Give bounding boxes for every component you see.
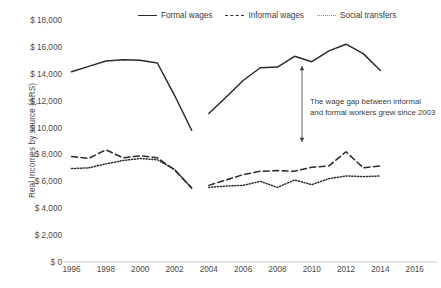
legend-label-social-transfers: Social transfers <box>340 11 396 20</box>
x-axis-tick-label: 2002 <box>165 265 183 274</box>
x-axis-tick-label: 1998 <box>97 265 115 274</box>
annotation-line-1: The wage gap between informal <box>310 96 441 107</box>
legend-item-informal-wages: Informal wages <box>225 11 304 20</box>
solid-line-key-icon <box>138 15 157 16</box>
legend-item-social-transfers: Social transfers <box>317 11 396 20</box>
x-axis-tick-label: 2016 <box>406 265 424 274</box>
annotation-double-arrow-icon <box>300 66 304 142</box>
series-line-formal-wages <box>72 60 192 131</box>
x-axis-tick-label: 2010 <box>303 265 321 274</box>
annotation-text: The wage gap between informal and formal… <box>310 96 441 119</box>
series-line-social-transfers <box>72 158 192 188</box>
x-axis-tick-label: 2008 <box>268 265 286 274</box>
y-axis-tick-label: $ 2,000 <box>6 231 62 240</box>
y-axis-title: Real Incomes by source (ARS) <box>28 51 37 231</box>
annotation-line-2: and formal workers grew since 2003 <box>310 107 441 118</box>
x-axis-tick-label: 1996 <box>62 265 80 274</box>
dotted-line-key-icon <box>317 15 336 16</box>
y-axis-tick-label: $ 0 <box>6 258 62 267</box>
x-axis-tick-label: 2012 <box>337 265 355 274</box>
y-axis-tick-label: $ 18,000 <box>6 16 62 25</box>
legend-label-informal-wages: Informal wages <box>248 11 304 20</box>
plot-area <box>0 0 441 288</box>
x-axis-tick-label: 2004 <box>200 265 218 274</box>
legend-label-formal-wages: Formal wages <box>161 11 212 20</box>
chart-legend: Formal wages Informal wages Social trans… <box>138 11 396 20</box>
x-axis-tick-label: 2000 <box>131 265 149 274</box>
x-axis-tick-label: 2006 <box>234 265 252 274</box>
x-axis-tick-label: 2014 <box>371 265 389 274</box>
legend-item-formal-wages: Formal wages <box>138 11 212 20</box>
series-line-social-transfers <box>209 176 381 187</box>
dashed-line-key-icon <box>225 15 244 16</box>
chart-container: $ 18,000$ 16,000$ 14,000$ 12,000$ 10,000… <box>0 0 441 288</box>
